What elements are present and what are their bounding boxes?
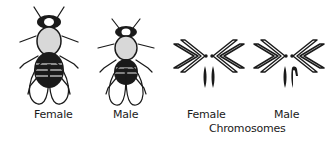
female-chromosomes-diagram <box>172 38 246 90</box>
male-fly-label: Male <box>113 108 138 121</box>
chromosomes-caption: Chromosomes <box>209 122 286 135</box>
female-fly-label: Female <box>34 108 73 121</box>
male-fly-illustration <box>94 18 158 108</box>
male-chromosomes-diagram <box>252 38 326 90</box>
female-chromosomes-label: Female <box>187 108 226 121</box>
female-fly-illustration <box>14 4 84 109</box>
male-chromosomes-label: Male <box>274 108 299 121</box>
